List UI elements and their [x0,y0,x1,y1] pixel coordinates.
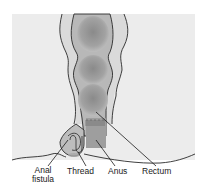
anatomy-diagram [0,0,209,189]
thread-knot [68,153,80,157]
label-rectum: Rectum [142,167,171,176]
stool-mass-3 [78,84,108,116]
label-anal-fistula-line2: fistula [30,175,56,184]
label-anal-fistula: Anal fistula [30,166,56,184]
stool-mass-1 [77,16,109,52]
label-thread: Thread [67,167,94,176]
label-anus: Anus [108,167,127,176]
stool-mass-2 [78,55,108,85]
